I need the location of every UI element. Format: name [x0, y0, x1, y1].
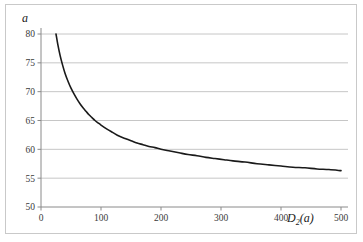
y-axis-title: a	[22, 11, 28, 25]
x-axis-tick-marks	[41, 207, 341, 211]
y-tick-label-60: 60	[26, 145, 36, 155]
y-tick-label-80: 80	[26, 29, 36, 39]
y-tick-label-55: 55	[26, 174, 36, 184]
y-tick-label-65: 65	[26, 116, 36, 126]
y-tick-label-70: 70	[26, 87, 36, 97]
x-axis-title-main: D	[286, 211, 296, 225]
y-axis-tick-marks	[38, 34, 42, 207]
x-axis-title: D2(a)	[286, 211, 314, 227]
y-tick-label-50: 50	[26, 202, 36, 212]
chart-canvas: 50556065707580 0100200300400500 a D2(a)	[0, 0, 363, 242]
x-tick-label-100: 100	[94, 213, 109, 223]
chart-figure: 50556065707580 0100200300400500 a D2(a)	[0, 0, 363, 242]
x-tick-label-500: 500	[334, 213, 349, 223]
x-axis-title-argument: (a)	[300, 211, 314, 225]
y-axis-tick-labels: 50556065707580	[26, 29, 36, 212]
x-tick-label-300: 300	[214, 213, 229, 223]
x-tick-label-0: 0	[39, 213, 44, 223]
x-tick-label-200: 200	[154, 213, 169, 223]
y-tick-label-75: 75	[26, 58, 36, 68]
